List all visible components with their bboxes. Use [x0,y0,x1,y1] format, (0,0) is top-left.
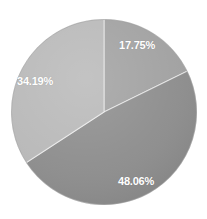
pie-slice-label-3: 34.19% [17,76,53,87]
pie-chart-canvas [0,0,207,219]
pie-chart: 17.75% 48.06% 34.19% [0,0,207,219]
pie-slice-label-1: 17.75% [119,40,155,51]
pie-slice-label-2: 48.06% [118,176,154,187]
